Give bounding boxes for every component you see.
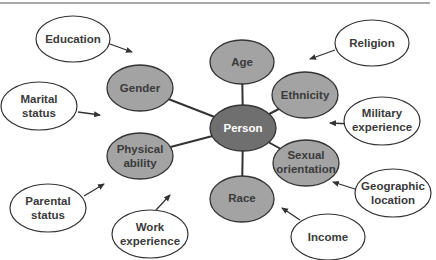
node-label: Geographic — [361, 180, 426, 192]
factor-religion: Religion — [335, 20, 409, 66]
factor-income: Income — [291, 214, 365, 260]
node-physical-ability: Physical ability — [107, 133, 173, 179]
node-label: experience — [120, 235, 180, 247]
node-ethnicity: Ethnicity — [272, 72, 338, 118]
factor-education: Education — [36, 16, 110, 62]
factor-geographic-location: Geographic location — [355, 169, 431, 217]
node-label: Education — [45, 33, 101, 45]
node-label: Religion — [349, 37, 394, 49]
node-label: Parental — [25, 195, 70, 207]
factor-parental-status: Parental status — [10, 184, 86, 232]
node-label: ability — [123, 157, 157, 169]
node-label: Physical — [117, 143, 164, 155]
node-label: Sexual — [287, 149, 324, 161]
factor-work-experience: Work experience — [112, 210, 188, 258]
node-label: Gender — [120, 82, 161, 94]
node-label: Age — [231, 56, 253, 68]
node-label: status — [22, 107, 56, 119]
node-label: Marital — [20, 93, 57, 105]
factor-marital-status: Marital status — [1, 82, 77, 130]
node-label: Income — [308, 231, 348, 243]
node-gender: Gender — [107, 65, 173, 111]
node-label: Military — [362, 107, 403, 119]
node-label: Work — [136, 221, 165, 233]
node-label: Ethnicity — [281, 89, 330, 101]
node-label: location — [371, 194, 415, 206]
diversity-diagram: Age Gender Ethnicity Physical ability Se… — [0, 0, 436, 260]
node-age: Age — [210, 40, 274, 84]
node-label: orientation — [276, 163, 335, 175]
node-sexual-orientation: Sexual orientation — [273, 140, 339, 186]
node-label: Person — [224, 122, 263, 134]
node-label: status — [31, 209, 65, 221]
node-label: Race — [228, 192, 256, 204]
node-race: Race — [210, 176, 274, 222]
factor-military-experience: Military experience — [344, 97, 420, 145]
node-person: Person — [210, 105, 276, 151]
node-label: experience — [352, 121, 412, 133]
